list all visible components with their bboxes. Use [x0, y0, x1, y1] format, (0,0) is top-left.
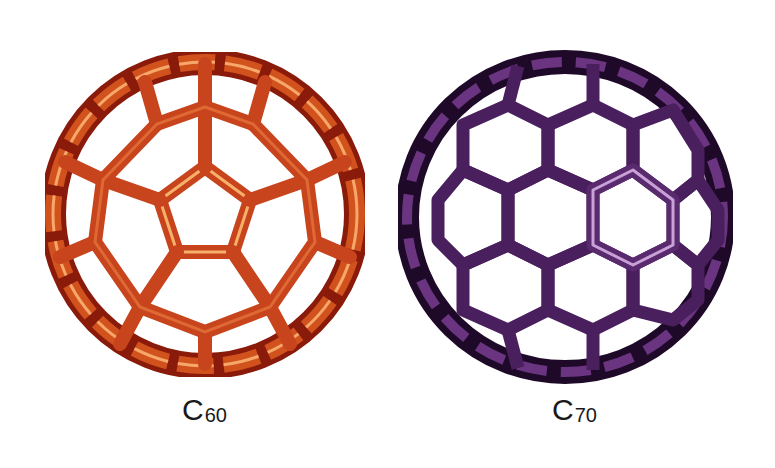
c60-label-subscript: 60 — [205, 404, 227, 426]
c60-molecule-image — [45, 52, 365, 377]
c70-label-subscript: 70 — [575, 404, 597, 426]
c70-molecule-image — [398, 50, 733, 385]
c70-label-element: C — [552, 393, 574, 426]
c60-label-element: C — [182, 393, 204, 426]
c70-label: C70 — [552, 395, 597, 425]
c60-label: C60 — [182, 395, 227, 425]
